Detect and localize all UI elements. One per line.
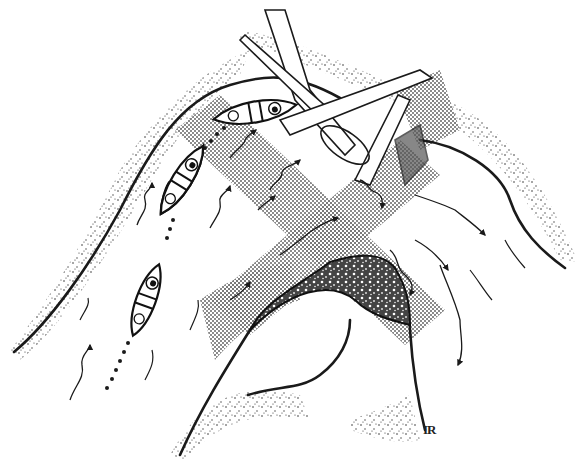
artist-signature: IR xyxy=(423,422,435,438)
river-scene xyxy=(0,0,578,466)
illustration-canvas: IR xyxy=(0,0,578,466)
canoe-lower xyxy=(124,261,169,339)
inner-rock-outline xyxy=(248,320,350,395)
